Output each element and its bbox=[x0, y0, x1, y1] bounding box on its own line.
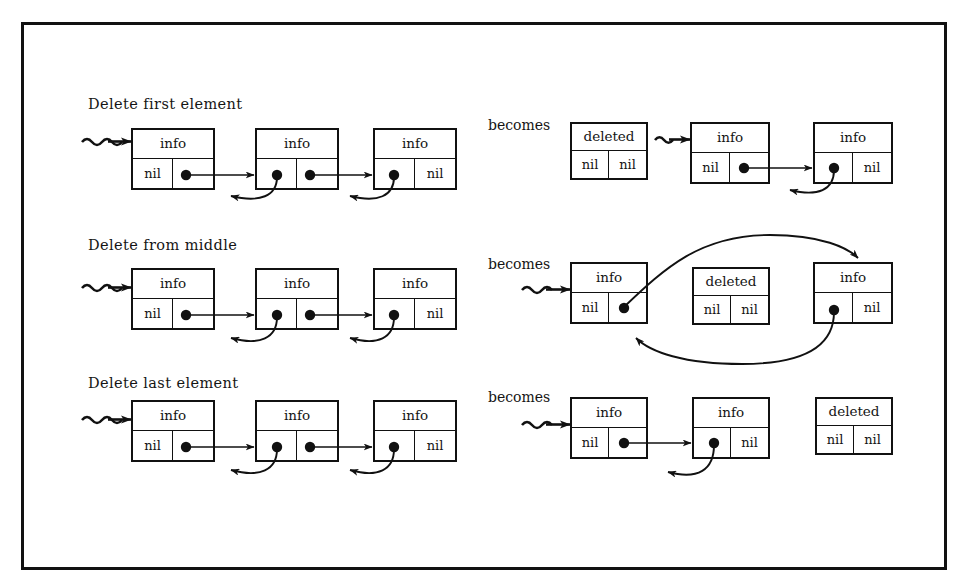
head-pointer-r1-before bbox=[82, 139, 131, 145]
prev-arrow-r2-after-bypass bbox=[636, 312, 834, 364]
prev-arrow-r3-1 bbox=[231, 449, 277, 473]
arrows-layer bbox=[0, 0, 974, 586]
prev-arrow-r3-after bbox=[668, 445, 714, 475]
prev-arrow-r3-2 bbox=[350, 449, 394, 473]
prev-arrow-r1-2 bbox=[350, 177, 394, 199]
head-pointer-r2-before bbox=[82, 285, 131, 291]
prev-arrow-r2-2 bbox=[350, 317, 394, 341]
head-pointer-r2-after bbox=[522, 287, 570, 293]
prev-arrow-r1-1 bbox=[231, 177, 277, 199]
prev-arrow-r2-1 bbox=[231, 317, 277, 341]
figure-canvas: Delete first element Delete from middle … bbox=[0, 0, 974, 586]
prev-arrow-r1-after bbox=[790, 170, 834, 193]
head-pointer-r3-before bbox=[82, 417, 131, 423]
next-arrow-r2-after-bypass bbox=[624, 235, 858, 307]
head-pointer-r1-after bbox=[655, 137, 690, 143]
head-pointer-r3-after bbox=[522, 422, 570, 428]
